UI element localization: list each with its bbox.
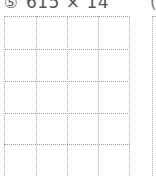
next-problem-label: ( bbox=[150, 0, 156, 12]
grid-col-line bbox=[36, 16, 37, 177]
grid-col-line bbox=[98, 16, 99, 177]
problem-number: ⑤ bbox=[4, 0, 18, 12]
grid-col-line bbox=[4, 16, 5, 177]
grid-col-line bbox=[129, 16, 130, 177]
problem-label: ⑤615 × 14 bbox=[4, 0, 109, 12]
problem-expression: 615 × 14 bbox=[26, 0, 109, 12]
grid-col-line bbox=[67, 16, 68, 177]
grid-col-line bbox=[152, 16, 153, 177]
